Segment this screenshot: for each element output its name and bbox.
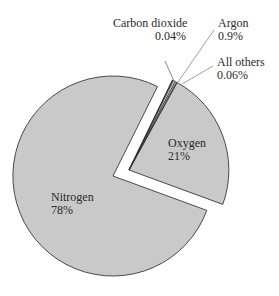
label-argon-value: 0.9%: [218, 29, 243, 43]
label-oxygen-value: 21%: [168, 149, 190, 163]
label-oxygen-name: Oxygen: [168, 136, 206, 150]
label-nitrogen-name: Nitrogen: [51, 190, 94, 204]
label-co2-name: Carbon dioxide: [113, 16, 187, 30]
pie-chart: Carbon dioxide 0.04% Argon 0.9% All othe…: [0, 0, 279, 296]
label-argon-name: Argon: [218, 16, 248, 30]
label-nitrogen-value: 78%: [51, 203, 73, 217]
label-others-name: All others: [217, 55, 265, 69]
label-others-value: 0.06%: [217, 68, 248, 82]
label-co2-value: 0.04%: [155, 29, 186, 43]
leader-others: [182, 66, 213, 84]
leader-co2: [165, 61, 174, 81]
